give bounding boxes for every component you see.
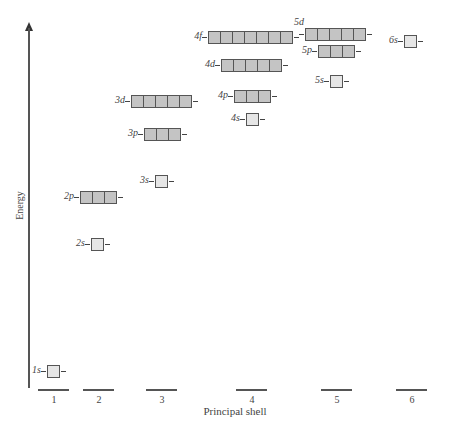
level-tick-right xyxy=(260,119,265,120)
orbital-box xyxy=(81,192,93,203)
orbital-box xyxy=(269,32,281,43)
orbital-box xyxy=(331,46,343,57)
orbital-3d: 3d xyxy=(131,95,192,108)
orbital-label: 1s xyxy=(32,364,41,375)
shell-baseline-2 xyxy=(83,389,114,391)
orbital-box xyxy=(156,176,167,187)
orbital-box xyxy=(48,366,59,377)
level-tick-left xyxy=(299,34,304,35)
orbital-box xyxy=(330,29,342,40)
level-tick-left xyxy=(398,41,403,42)
orbital-box xyxy=(306,29,318,40)
orbital-label: 5s xyxy=(315,74,324,85)
shell-number: 4 xyxy=(236,394,268,405)
orbital-label: 4d xyxy=(205,58,215,69)
level-tick-left xyxy=(240,119,245,120)
orbital-box xyxy=(246,60,258,71)
level-tick-left xyxy=(85,244,90,245)
orbital-boxes xyxy=(330,75,343,88)
orbital-5d: 5d xyxy=(305,28,366,41)
level-tick-right xyxy=(294,37,299,38)
orbital-box xyxy=(145,129,157,140)
orbital-box xyxy=(233,32,245,43)
level-tick-right xyxy=(283,65,288,66)
orbital-2p: 2p xyxy=(80,191,117,204)
orbital-box xyxy=(405,36,416,47)
orbital-box xyxy=(221,32,233,43)
orbital-boxes xyxy=(208,31,293,44)
orbital-3p: 3p xyxy=(144,128,181,141)
orbital-box xyxy=(354,29,365,40)
level-tick-left xyxy=(228,96,233,97)
orbital-3s: 3s xyxy=(155,175,168,188)
level-tick-left xyxy=(312,51,317,52)
orbital-box xyxy=(157,129,169,140)
orbital-4p: 4p xyxy=(234,90,271,103)
shell-baseline-5 xyxy=(321,389,352,391)
shell-baseline-4 xyxy=(236,389,267,391)
orbital-box xyxy=(259,91,270,102)
orbital-boxes xyxy=(305,28,366,41)
orbital-label: 2s xyxy=(76,237,85,248)
orbital-boxes xyxy=(80,191,117,204)
orbital-label: 5p xyxy=(302,44,312,55)
orbital-label: 4s xyxy=(231,112,240,123)
orbital-boxes xyxy=(234,90,271,103)
orbital-label: 6s xyxy=(389,34,398,45)
orbital-box xyxy=(257,32,269,43)
orbital-box xyxy=(331,76,342,87)
orbital-6s: 6s xyxy=(404,35,417,48)
orbital-box xyxy=(270,60,281,71)
orbital-box xyxy=(180,96,191,107)
orbital-boxes xyxy=(155,175,168,188)
orbital-energy-diagram: Energy Principal shell 123456 1s2s2p3s3p… xyxy=(0,0,449,430)
orbital-box xyxy=(156,96,168,107)
level-tick-left xyxy=(215,65,220,66)
orbital-box xyxy=(209,32,221,43)
orbital-box xyxy=(343,46,354,57)
orbital-label: 3d xyxy=(115,94,125,105)
orbital-box xyxy=(222,60,234,71)
orbital-box xyxy=(169,129,180,140)
level-tick-right xyxy=(272,96,277,97)
level-tick-left xyxy=(41,371,46,372)
level-tick-right xyxy=(344,81,349,82)
orbital-label: 3p xyxy=(128,127,138,138)
orbital-box xyxy=(132,96,144,107)
orbital-boxes xyxy=(131,95,192,108)
shell-number: 2 xyxy=(83,394,115,405)
y-axis-label: Energy xyxy=(14,184,25,228)
orbital-box xyxy=(234,60,246,71)
orbital-boxes xyxy=(246,113,259,126)
level-tick-right xyxy=(418,41,423,42)
orbital-boxes xyxy=(404,35,417,48)
orbital-box xyxy=(247,91,259,102)
orbital-box xyxy=(247,114,258,125)
shell-baseline-3 xyxy=(146,389,177,391)
orbital-boxes xyxy=(221,59,282,72)
orbital-box xyxy=(245,32,257,43)
shell-number: 6 xyxy=(396,394,428,405)
orbital-box xyxy=(342,29,354,40)
orbital-box xyxy=(318,29,330,40)
orbital-label: 2p xyxy=(64,190,74,201)
shell-baseline-6 xyxy=(396,389,427,391)
orbital-boxes xyxy=(318,45,355,58)
orbital-4d: 4d xyxy=(221,59,282,72)
orbital-4s: 4s xyxy=(246,113,259,126)
level-tick-left xyxy=(202,37,207,38)
orbital-box xyxy=(168,96,180,107)
energy-axis xyxy=(28,28,30,388)
orbital-4f: 4f xyxy=(208,31,293,44)
shell-number: 1 xyxy=(38,394,70,405)
shell-baseline-1 xyxy=(38,389,69,391)
orbital-1s: 1s xyxy=(47,365,60,378)
orbital-label: 4f xyxy=(194,30,202,41)
orbital-box xyxy=(235,91,247,102)
level-tick-right xyxy=(105,244,110,245)
orbital-boxes xyxy=(144,128,181,141)
level-tick-right xyxy=(356,51,361,52)
orbital-box xyxy=(93,192,105,203)
orbital-5p: 5p xyxy=(318,45,355,58)
level-tick-right xyxy=(193,101,198,102)
